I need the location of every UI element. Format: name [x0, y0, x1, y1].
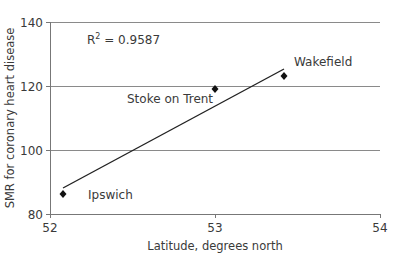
data-point-ipswich — [60, 190, 67, 198]
y-tick-labels: 140 120 100 80 — [20, 16, 43, 222]
r2-value: = 0.9587 — [100, 33, 160, 47]
y-tick-label: 100 — [20, 144, 43, 158]
point-label-stoke-on-trent: Stoke on Trent — [127, 92, 213, 106]
y-tick-label: 80 — [28, 208, 43, 222]
r-squared-annotation: R2 = 0.9587 — [87, 32, 160, 47]
x-tick-labels: 52 53 54 — [42, 221, 387, 235]
r2-prefix: R — [87, 33, 95, 47]
x-tick-label: 52 — [42, 221, 57, 235]
y-axis-title: SMR for coronary heart disease — [3, 28, 17, 209]
y-tick-label: 140 — [20, 16, 43, 30]
point-label-wakefield: Wakefield — [294, 55, 352, 69]
point-label-ipswich: Ipswich — [88, 188, 133, 202]
data-points — [60, 72, 288, 198]
y-tick-label: 120 — [20, 80, 43, 94]
x-tick-label: 53 — [207, 221, 222, 235]
scatter-chart: 140 120 100 80 52 53 54 Latitude, degree… — [0, 0, 397, 260]
x-axis-title: Latitude, degrees north — [147, 239, 282, 253]
x-tick-label: 54 — [372, 221, 387, 235]
data-point-wakefield — [281, 72, 288, 80]
